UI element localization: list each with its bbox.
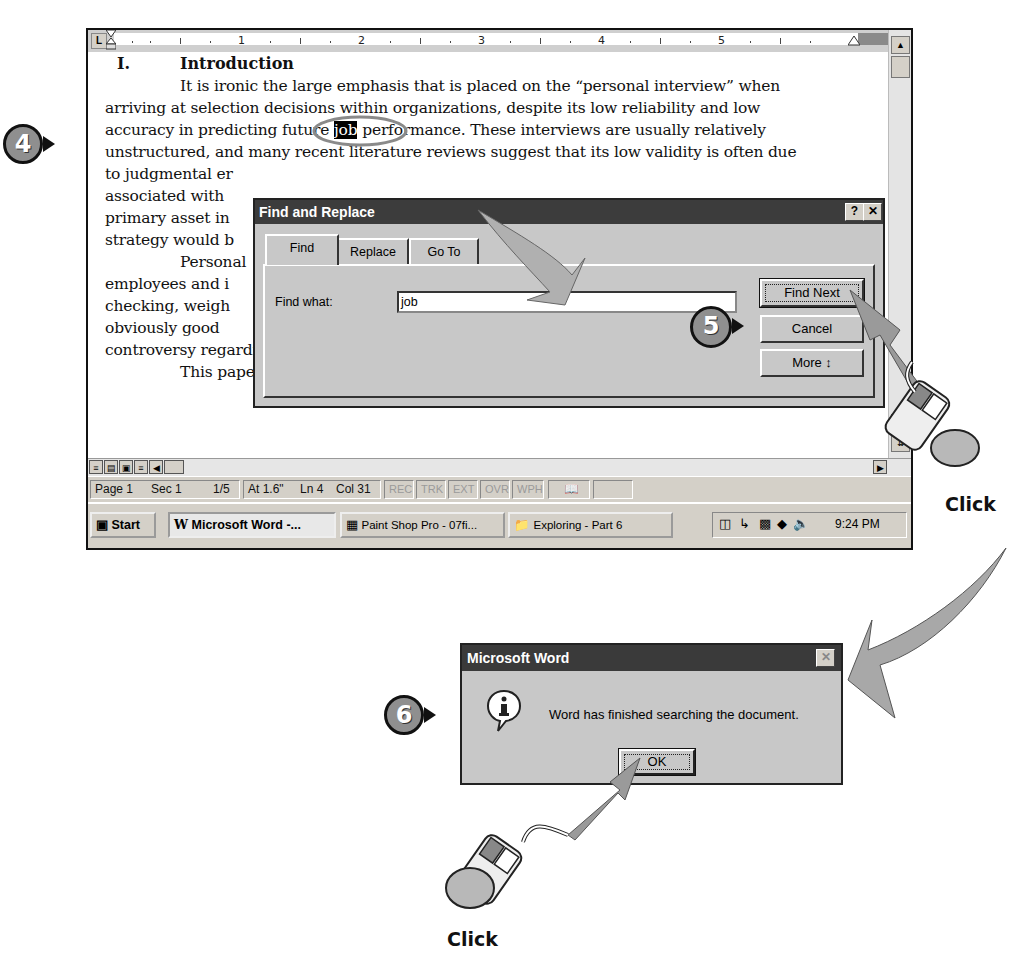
hand-icon bbox=[446, 868, 494, 908]
tab-find[interactable]: Find bbox=[265, 234, 339, 265]
arrow-to-ok bbox=[568, 758, 640, 840]
click-label-find-next: Click bbox=[945, 493, 996, 515]
annotation-overlay bbox=[0, 0, 1014, 953]
step-6-badge: 6 bbox=[384, 695, 424, 735]
arrow-to-find-next bbox=[850, 290, 925, 395]
step-6-pointer-icon bbox=[424, 707, 436, 723]
step-5-badge: 5 bbox=[690, 306, 732, 348]
hand-icon bbox=[931, 430, 979, 466]
arrow-to-message-box bbox=[848, 548, 1006, 718]
step-5-pointer-icon bbox=[732, 318, 744, 334]
step-4-badge: 4 bbox=[3, 124, 43, 164]
click-label-ok: Click bbox=[447, 928, 498, 950]
arrow-to-find-input bbox=[478, 210, 585, 305]
step-4-pointer-icon bbox=[43, 136, 55, 152]
